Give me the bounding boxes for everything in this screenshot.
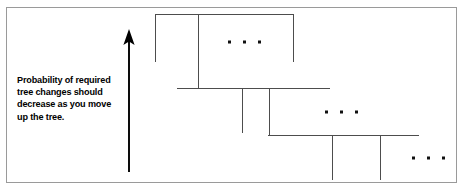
tree-level-2 <box>177 88 358 135</box>
up-arrow <box>123 29 134 172</box>
tree-level-3 <box>268 135 445 180</box>
diagram-figure: Probability of required tree changes sho… <box>0 0 464 191</box>
caption-line-2: tree changes should <box>17 86 121 98</box>
level-1-ellipsis-icon <box>228 41 261 44</box>
caption-line-1: Probability of required <box>17 74 121 86</box>
caption-text: Probability of required tree changes sho… <box>17 74 121 123</box>
caption-line-4: up the tree. <box>17 111 121 123</box>
tree-level-1 <box>155 14 294 88</box>
caption-line-3: decrease as you move <box>17 98 121 110</box>
level-3-ellipsis-icon <box>412 157 445 160</box>
level-2-ellipsis-icon <box>325 111 358 114</box>
